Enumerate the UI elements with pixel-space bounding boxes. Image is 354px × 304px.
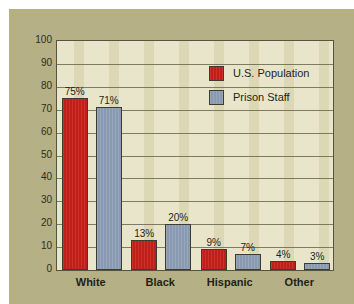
bar <box>96 107 122 270</box>
y-axis-tick <box>56 178 57 179</box>
bar-value-label: 13% <box>124 228 164 239</box>
bar-value-label: 20% <box>158 212 198 223</box>
x-axis-category-label: White <box>56 275 126 289</box>
y-axis-tick <box>56 224 57 225</box>
bar <box>62 98 88 270</box>
y-axis-tick <box>56 110 57 111</box>
y-axis-tick-label: 10 <box>22 241 52 251</box>
y-axis-tick-labels: 0102030405060708090100 <box>19 40 52 271</box>
chart-legend: U.S. Population Prison Staff <box>209 63 331 111</box>
y-axis-tick-label: 100 <box>22 35 52 45</box>
bar <box>304 263 330 270</box>
y-axis-tick <box>56 201 57 202</box>
y-axis-tick-label: 80 <box>22 81 52 91</box>
y-axis-tick-label: 40 <box>22 172 52 182</box>
bar <box>201 249 227 270</box>
y-axis-tick-label: 0 <box>22 264 52 274</box>
x-axis-category-labels: WhiteBlackHispanicOther <box>56 275 334 291</box>
bar-value-label: 71% <box>89 95 129 106</box>
y-axis-tick-label: 60 <box>22 127 52 137</box>
x-axis-category-label: Hispanic <box>195 275 265 289</box>
plot-area: 75%71%13%20%9%7%4%3% U.S. Population Pri… <box>56 40 334 271</box>
legend-item-prison-staff: Prison Staff <box>209 87 331 107</box>
bar <box>165 224 191 270</box>
legend-swatch-prison-staff <box>209 90 224 105</box>
y-axis-tick <box>56 64 57 65</box>
bar <box>131 240 157 270</box>
chart-screenshot: 0102030405060708090100 75%71%13%20%9%7%4… <box>0 0 354 304</box>
y-axis-tick-label: 20 <box>22 218 52 228</box>
legend-swatch-us-population <box>209 66 224 81</box>
y-axis-tick <box>56 133 57 134</box>
y-axis-tick <box>56 270 57 271</box>
bar <box>235 254 261 270</box>
y-axis-tick-label: 30 <box>22 195 52 205</box>
y-axis-tick-label: 90 <box>22 58 52 68</box>
y-axis-tick-label: 50 <box>22 150 52 160</box>
bar-value-label: 7% <box>228 242 268 253</box>
x-axis-category-label: Black <box>126 275 196 289</box>
legend-item-us-population: U.S. Population <box>209 63 331 83</box>
y-axis-tick <box>56 156 57 157</box>
legend-label-prison-staff: Prison Staff <box>233 91 290 103</box>
chart-paper-background: 0102030405060708090100 75%71%13%20%9%7%4… <box>9 9 354 304</box>
y-axis-tick-label: 70 <box>22 104 52 114</box>
bar-value-label: 3% <box>297 251 334 262</box>
x-axis-category-label: Other <box>265 275 335 289</box>
bar <box>270 261 296 270</box>
legend-label-us-population: U.S. Population <box>233 67 309 79</box>
y-axis-tick <box>56 247 57 248</box>
y-axis-tick <box>56 41 57 42</box>
